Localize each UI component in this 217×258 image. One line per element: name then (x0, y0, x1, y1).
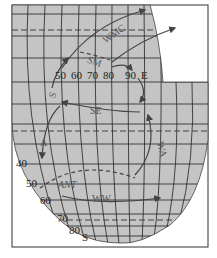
lon-label-90: 90 (125, 69, 137, 81)
indian-ocean-currents-map: WMC SM S SE A WA ANT WW 50 60 70 80 90 E… (0, 0, 217, 258)
lat-label-50: 50 (26, 177, 38, 189)
current-label-ww: WW (92, 193, 111, 204)
current-label-se: SE (90, 105, 102, 116)
lon-label-50: 50 (55, 69, 67, 81)
lat-label-70: 70 (57, 212, 69, 224)
lon-label-70: 70 (87, 69, 99, 81)
lon-label-80: 80 (103, 69, 115, 81)
lat-label-80: 80 (69, 224, 81, 236)
lat-label-s: S (82, 231, 88, 243)
lat-label-40: 40 (16, 157, 28, 169)
lon-label-e: E (141, 69, 148, 81)
current-label-a: A (40, 137, 48, 148)
lon-label-60: 60 (71, 69, 83, 81)
lat-label-60: 60 (40, 194, 52, 206)
current-label-ant: ANT (57, 179, 78, 190)
